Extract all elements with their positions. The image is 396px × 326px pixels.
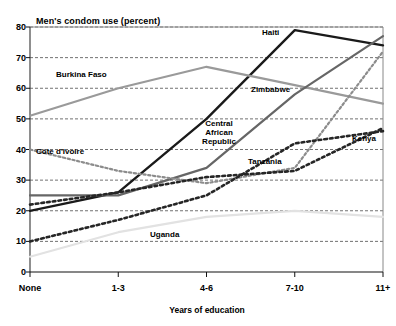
series-label-zimbabwe: Zimbabwe bbox=[251, 85, 290, 94]
x-axis-tick-label: 4-6 bbox=[200, 283, 213, 293]
series-label-tanzania: Tanzania bbox=[248, 157, 282, 166]
series-label-uganda: Uganda bbox=[150, 230, 179, 239]
y-axis-tick-label: 10 bbox=[0, 236, 26, 246]
x-axis-tick-label: 1-3 bbox=[112, 283, 125, 293]
y-axis-tick-label: 50 bbox=[0, 114, 26, 124]
x-axis-tick-label: None bbox=[19, 283, 42, 293]
series-label-c-te-d-ivoire: Côte d'Ivoire bbox=[36, 147, 84, 156]
y-axis-tick-label: 20 bbox=[0, 206, 26, 216]
series-label-central-african-republic: Central African Republic bbox=[197, 119, 241, 146]
y-axis-tick-label: 0 bbox=[0, 267, 26, 277]
x-axis-tick-label: 7-10 bbox=[286, 283, 304, 293]
y-axis-tick-label: 60 bbox=[0, 83, 26, 93]
series-label-haiti: Haiti bbox=[262, 28, 279, 37]
y-axis-tick-label: 70 bbox=[0, 53, 26, 63]
y-axis-tick-label: 40 bbox=[0, 145, 26, 155]
series-line-zimbabwe bbox=[30, 36, 383, 195]
y-axis-tick-label: 80 bbox=[0, 22, 26, 32]
y-axis-tick-label: 30 bbox=[0, 175, 26, 185]
series-label-burkina-faso: Burkina Faso bbox=[56, 70, 107, 79]
series-label-kenya: Kenya bbox=[352, 134, 376, 143]
series-line-uganda bbox=[30, 211, 383, 257]
chart-plot-area bbox=[0, 0, 396, 326]
chart-container: Men's condom use (percent) 0102030405060… bbox=[0, 0, 396, 326]
x-axis-tick-label: 11+ bbox=[376, 283, 391, 293]
x-axis-title: Years of education bbox=[169, 305, 245, 315]
